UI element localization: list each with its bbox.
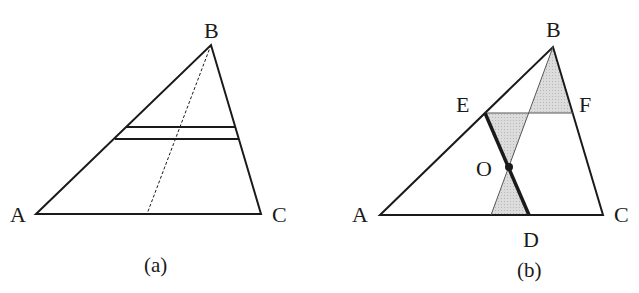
vertex-label-a: A	[352, 202, 368, 227]
caption-b: (b)	[517, 258, 542, 282]
triangle-abc	[36, 45, 261, 214]
caption-a: (a)	[144, 253, 167, 277]
vertex-label-a: A	[10, 202, 26, 227]
vertex-label-b: B	[546, 17, 561, 42]
vertex-label-c: C	[614, 202, 629, 227]
panel-a: B A C (a)	[10, 18, 287, 277]
point-o	[505, 163, 513, 171]
panel-b: B A C E F O D (b)	[352, 17, 629, 282]
triangle-diagrams: B A C (a) B A C E F O D (b)	[0, 0, 639, 293]
shaded-triangle-top	[529, 47, 573, 113]
vertex-label-b: B	[204, 18, 219, 43]
vertex-label-o: O	[476, 156, 492, 181]
vertex-label-f: F	[579, 92, 591, 117]
vertex-label-e: E	[456, 92, 469, 117]
dashed-median	[147, 45, 211, 214]
vertex-label-d: D	[523, 227, 539, 252]
vertex-label-c: C	[272, 202, 287, 227]
